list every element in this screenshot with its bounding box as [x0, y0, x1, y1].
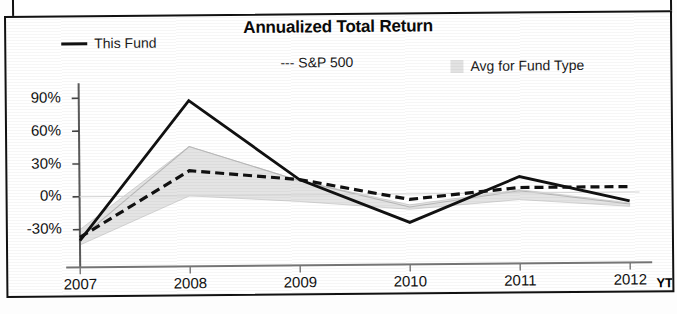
- x-axis-tick-label: 2011: [492, 271, 548, 288]
- x-axis-tick-label: 2012: [602, 270, 658, 287]
- x-axis-tick-label: 2007: [52, 275, 108, 292]
- x-axis-tick-label: 2008: [162, 274, 218, 291]
- x-axis-line: [66, 262, 652, 267]
- x-axis-ytd-note: YTD: [656, 275, 674, 290]
- x-axis-tick-label: 2009: [272, 273, 328, 290]
- y-axis-tick-label: 60%: [4, 121, 61, 139]
- y-axis-tick-label: 30%: [4, 154, 61, 172]
- plot-area: [6, 12, 672, 296]
- x-axis-tick-label: 2010: [382, 272, 438, 289]
- annualized-total-return-chart-panel: Annualized Total Return This Fund --- S&…: [4, 10, 674, 298]
- scanned-page: Annualized Total Return This Fund --- S&…: [0, 0, 677, 314]
- y-axis-tick-label: 0%: [4, 187, 62, 205]
- y-axis-tick-label: 90%: [4, 88, 61, 106]
- y-axis-tick-label: -30%: [4, 220, 62, 238]
- returns-line-chart-svg: [6, 12, 672, 296]
